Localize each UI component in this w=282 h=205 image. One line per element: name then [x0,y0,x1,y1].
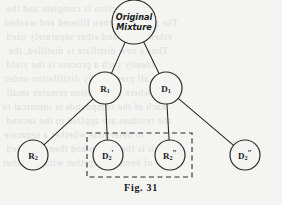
node-circle-group [18,0,260,170]
edge-root-to-d1 [144,42,159,74]
node-circle-d2p [93,140,123,170]
edge-group [44,42,234,146]
edge-d1-to-d2pp [178,98,233,145]
edge-r1-to-d2p [106,104,108,140]
edge-d1-to-r2pp [167,104,169,140]
figure-caption: Fig. 31 [0,182,282,193]
node-circle-r2pp [155,140,185,170]
edge-r1-to-r2 [44,99,93,145]
tree-diagram [0,0,282,205]
node-circle-root [112,0,156,44]
figure-page: the reaction is complete and theThe prod… [0,0,282,205]
node-circle-d1 [150,72,182,104]
node-circle-d2pp [230,140,260,170]
node-circle-r1 [89,72,121,104]
edge-root-to-r1 [111,42,125,73]
node-circle-r2 [18,140,48,170]
